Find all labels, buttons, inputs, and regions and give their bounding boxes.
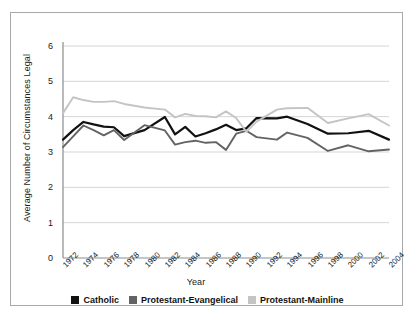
- x-tick-label: 1980: [143, 250, 162, 269]
- legend-swatch-icon: [129, 296, 137, 304]
- legend-item[interactable]: Catholic: [71, 295, 119, 305]
- legend-label: Protestant-Mainline: [260, 295, 344, 305]
- x-tick-label: 1974: [81, 250, 100, 269]
- chart-legend: CatholicProtestant-EvangelicalProtestant…: [11, 295, 404, 305]
- x-tick-label: 1988: [224, 250, 243, 269]
- x-tick-label: 2000: [346, 250, 365, 269]
- x-tick-label: 1972: [61, 250, 80, 269]
- x-tick-label: 1976: [102, 250, 121, 269]
- chart-figure-frame: 0123456 19721974197619781980198219841986…: [10, 12, 403, 306]
- x-tick-label: 2004: [387, 250, 406, 269]
- x-tick-label: 2002: [367, 250, 386, 269]
- legend-swatch-icon: [248, 296, 256, 304]
- x-tick-label: 1998: [326, 250, 345, 269]
- legend-label: Catholic: [83, 295, 119, 305]
- x-tick-label: 1994: [285, 250, 304, 269]
- x-tick-label: 1992: [265, 250, 284, 269]
- legend-label: Protestant-Evangelical: [141, 295, 238, 305]
- legend-item[interactable]: Protestant-Evangelical: [129, 295, 238, 305]
- x-axis-tick-labels: 1972197419761978198019821984198619881990…: [11, 13, 404, 307]
- x-tick-label: 1990: [244, 250, 263, 269]
- legend-swatch-icon: [71, 296, 79, 304]
- x-tick-label: 1986: [204, 250, 223, 269]
- y-axis-title: Average Number of Circumstances Legal: [22, 48, 32, 228]
- x-tick-label: 1984: [183, 250, 202, 269]
- x-tick-label: 1982: [163, 250, 182, 269]
- x-tick-label: 1996: [306, 250, 325, 269]
- x-axis-title: Year: [11, 277, 381, 287]
- x-tick-label: 1978: [122, 250, 141, 269]
- legend-item[interactable]: Protestant-Mainline: [248, 295, 344, 305]
